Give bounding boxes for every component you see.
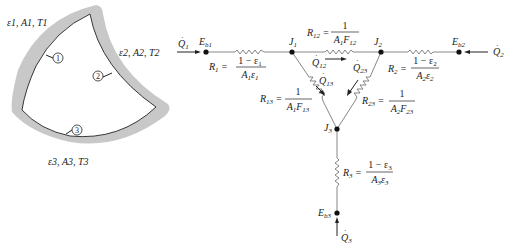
label-eb2: Eb2 — [451, 36, 466, 49]
svg-text:1: 1 — [56, 54, 60, 63]
svg-text:1 − ε3: 1 − ε3 — [368, 159, 392, 172]
formula-r23: R23 = 1 A2F23 — [361, 88, 415, 116]
node-eb3 — [334, 210, 339, 215]
svg-text:1: 1 — [296, 86, 301, 97]
svg-text:1: 1 — [343, 20, 348, 31]
label-eb3: Eb3 — [317, 207, 332, 220]
formula-r2: R2 = 1 − ε2 A2ε2 — [387, 55, 439, 83]
node-j1 — [289, 49, 294, 54]
node-eb1 — [203, 49, 208, 54]
svg-text:A2ε2: A2ε2 — [415, 70, 434, 83]
svg-text:1 − ε2: 1 − ε2 — [413, 55, 437, 68]
svg-text:R13 =: R13 = — [259, 93, 282, 106]
formula-r13: R13 = 1 A1F13 — [259, 86, 312, 114]
label-j1: J1 — [289, 36, 297, 49]
svg-text:A3ε3: A3ε3 — [370, 174, 389, 187]
svg-text:·: · — [315, 51, 318, 60]
svg-text:·: · — [356, 56, 359, 65]
svg-text:2: 2 — [96, 72, 100, 81]
formula-r3: R3 = 1 − ε3 A3ε3 — [342, 159, 393, 187]
svg-text:1 − ε1: 1 − ε1 — [238, 55, 262, 68]
svg-text:R12 =: R12 = — [306, 27, 329, 40]
svg-text:·: · — [181, 33, 184, 42]
svg-text:A1F13: A1F13 — [286, 101, 310, 114]
svg-text:R3 =: R3 = — [342, 167, 362, 180]
surface-3-properties: ε3, A3, T3 — [48, 156, 89, 167]
svg-text:A1F12: A1F12 — [333, 34, 357, 47]
node-j3 — [334, 126, 339, 131]
svg-text:·: · — [322, 69, 325, 78]
label-eb1: Eb1 — [198, 36, 212, 49]
label-j3: J3 — [324, 122, 332, 135]
svg-text:A1ε1: A1ε1 — [240, 69, 258, 82]
svg-text:R2 =: R2 = — [387, 63, 407, 76]
label-j2: J2 — [374, 36, 382, 49]
node-j2 — [378, 49, 383, 54]
formula-r12: R12 = 1 A1F12 — [306, 20, 359, 47]
svg-text:R1 =: R1 = — [208, 61, 228, 74]
enclosure-cavity — [22, 14, 156, 137]
node-eb2 — [456, 49, 461, 54]
three-surface-enclosure: 1 2 3 ε1, A1, T1 ε2, A2, T2 ε3, A3, T3 — [7, 5, 169, 167]
svg-text:·: · — [496, 41, 499, 50]
radiation-network-diagram: 1 2 3 ε1, A1, T1 ε2, A2, T2 ε3, A3, T3 — [0, 0, 518, 252]
svg-text:A2F23: A2F23 — [390, 103, 414, 116]
surface-1-properties: ε1, A1, T1 — [7, 17, 48, 28]
surface-2-properties: ε2, A2, T2 — [119, 47, 160, 58]
formula-r1: R1 = 1 − ε1 A1ε1 — [208, 55, 266, 82]
svg-text:1: 1 — [400, 88, 405, 99]
svg-text:·: · — [344, 226, 347, 235]
svg-text:R23 =: R23 = — [361, 95, 384, 108]
svg-text:3: 3 — [75, 126, 79, 135]
